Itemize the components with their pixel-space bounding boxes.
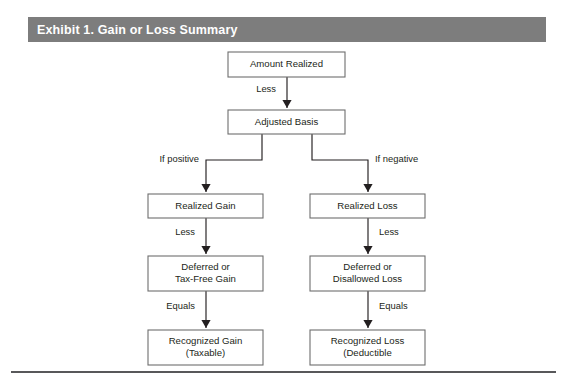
edge-label: If positive bbox=[159, 153, 199, 164]
node-label: Amount Realized bbox=[250, 58, 323, 69]
arrow-head-icon bbox=[363, 184, 372, 192]
edge-label: Less bbox=[379, 226, 399, 237]
flow-edge: Less bbox=[256, 77, 291, 108]
arrow-head-icon bbox=[363, 320, 372, 328]
flow-edge: If positive bbox=[159, 134, 262, 192]
node-label: Recognized Gain bbox=[169, 335, 243, 346]
footer-divider bbox=[11, 371, 556, 373]
edge-label: Equals bbox=[379, 300, 408, 311]
arrow-head-icon bbox=[201, 246, 210, 254]
flow-node: Deferred orTax-Free Gain bbox=[148, 256, 263, 291]
flow-node: Realized Gain bbox=[148, 194, 263, 218]
flow-edge: Less bbox=[363, 218, 399, 254]
flow-node: Deferred orDisallowed Loss bbox=[310, 256, 425, 291]
node-label: Tax-Free Gain bbox=[175, 273, 236, 284]
edge-line bbox=[312, 134, 368, 192]
flow-edge: Equals bbox=[363, 291, 408, 328]
node-label: Adjusted Basis bbox=[255, 116, 319, 127]
edge-line bbox=[206, 134, 262, 192]
flow-node: Adjusted Basis bbox=[228, 110, 345, 134]
arrow-head-icon bbox=[363, 246, 372, 254]
node-label: Realized Gain bbox=[175, 200, 235, 211]
edge-label: Equals bbox=[166, 300, 195, 311]
flow-node: Recognized Gain(Taxable) bbox=[148, 330, 263, 365]
arrow-head-icon bbox=[282, 100, 291, 108]
exhibit-figure: Exhibit 1. Gain or Loss Summary LessIf p… bbox=[0, 0, 572, 386]
arrow-head-icon bbox=[201, 184, 210, 192]
node-label: Deferred or bbox=[343, 261, 392, 272]
flow-node: Amount Realized bbox=[228, 52, 345, 77]
node-label: Recognized Loss bbox=[331, 335, 405, 346]
node-label: Deferred or bbox=[181, 261, 230, 272]
flow-edge: If negative bbox=[312, 134, 418, 192]
edge-label: If negative bbox=[375, 153, 418, 164]
node-label: Realized Loss bbox=[337, 200, 397, 211]
edge-label: Less bbox=[256, 83, 276, 94]
edge-label: Less bbox=[175, 226, 195, 237]
node-label: Disallowed Loss bbox=[333, 273, 403, 284]
arrow-head-icon bbox=[201, 320, 210, 328]
node-label: (Deductible bbox=[343, 347, 392, 358]
flow-node: Recognized Loss(Deductible bbox=[310, 330, 425, 365]
flowchart-canvas: LessIf positiveIf negativeLessLessEquals… bbox=[0, 0, 572, 386]
flow-edge: Equals bbox=[166, 291, 210, 328]
flow-edge: Less bbox=[175, 218, 210, 254]
node-label: (Taxable) bbox=[186, 347, 225, 358]
flow-node: Realized Loss bbox=[310, 194, 425, 218]
